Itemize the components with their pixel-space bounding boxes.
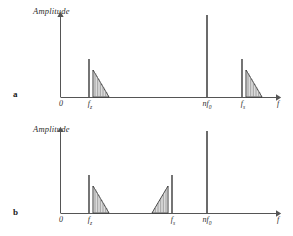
- x-axis-label-a: f: [277, 99, 279, 108]
- sideband-fs-a: [246, 70, 262, 97]
- panel-a-plot: [0, 0, 293, 118]
- tick-fz-a: fz: [88, 99, 92, 110]
- tick-fs-b: fs: [171, 215, 175, 226]
- tick-origin-a: 0: [59, 99, 63, 108]
- tick-origin-b: 0: [59, 215, 63, 224]
- sideband-fz-a: [93, 70, 109, 97]
- tick-fz-b: fz: [88, 215, 92, 226]
- x-axis-label-b: f: [277, 215, 279, 224]
- sideband-fz-b: [93, 186, 109, 213]
- tick-fs-a: fs: [241, 99, 245, 110]
- sideband-fs-b: [152, 186, 168, 213]
- panel-b: Amplitude b: [0, 118, 293, 236]
- panel-b-plot: [0, 118, 293, 236]
- tick-nf0-b: nf0: [203, 215, 212, 226]
- tick-nf0-a: nf0: [203, 99, 212, 110]
- spectrum-figure: Amplitude a: [0, 0, 293, 236]
- panel-a: Amplitude a: [0, 0, 293, 118]
